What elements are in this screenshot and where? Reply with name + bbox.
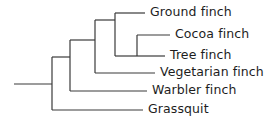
cladogram-figure: Ground finchCocoa finchTree finchVegetar… (0, 0, 267, 122)
taxon-label-ground-finch: Ground finch (150, 6, 232, 19)
taxon-label-grassquit: Grassquit (148, 103, 209, 116)
taxon-label-warbler-finch: Warbler finch (152, 84, 236, 97)
taxon-label-cocoa-finch: Cocoa finch (175, 28, 249, 41)
branch-line-group (14, 13, 170, 110)
taxon-label-tree-finch: Tree finch (170, 49, 232, 62)
taxon-label-vegetarian-finch: Vegetarian finch (160, 66, 264, 79)
